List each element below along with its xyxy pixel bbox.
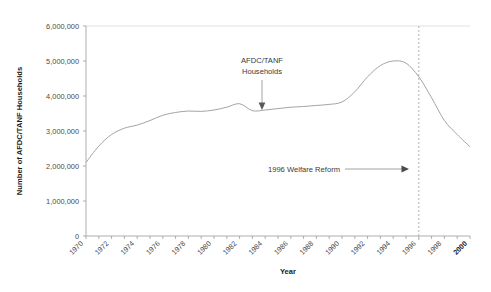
annotation-reform-label: 1996 Welfare Reform [268,165,340,174]
annotation-series-line2: Households [242,67,282,76]
y-tick-label: 3,000,000 [46,127,79,136]
x-axis-title: Year [280,267,296,276]
annotation-series-line1: AFDC/TANF [241,56,283,65]
chart-container: 01,000,0002,000,0003,000,0004,000,0005,0… [0,0,491,292]
y-tick-label: 4,000,000 [46,92,79,101]
y-tick-label: 6,000,000 [46,22,79,31]
line-chart: 01,000,0002,000,0003,000,0004,000,0005,0… [0,0,491,292]
y-tick-label: 2,000,000 [46,162,79,171]
y-tick-label: 1,000,000 [46,197,79,206]
y-tick-label: 5,000,000 [46,57,79,66]
y-axis-title: Number of AFDC/TANF Households [15,67,24,195]
